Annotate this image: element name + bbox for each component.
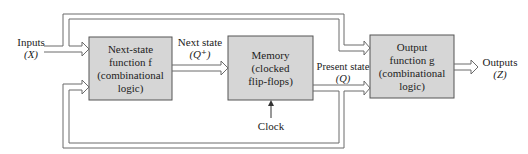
block-line: Memory [252,49,290,62]
present-state-label: Present state (Q) [313,61,373,85]
clock-label: Clock [251,120,291,132]
clock-text: Clock [258,120,284,132]
outputs-label: Outputs (Z) [478,56,522,80]
inputs-symbol: (X) [14,48,48,60]
feedback-arrow-to-next-state [82,80,89,94]
inputs-text: Inputs [14,36,48,48]
present-state-symbol: (Q) [313,73,373,85]
outputs-bus [454,60,478,74]
memory-text: Memory (clocked flip-flops) [228,36,313,100]
next-state-text: Next state [172,36,228,48]
output-function-text: Output function g (combinational logic) [370,35,454,98]
block-line: logic) [399,80,425,93]
next-state-label: Next state (Q⁺) [172,36,228,60]
present-state-text: Present state [313,61,373,73]
next-state-function-text: Next-state function f (combinational log… [89,37,172,100]
next-state-symbol: (Q⁺) [172,48,228,60]
block-line: function f [109,56,152,69]
block-line: Next-state [108,43,153,56]
block-line: Output [397,41,428,54]
clock-arrow [268,100,274,118]
block-line: (combinational [97,69,164,82]
outputs-symbol: (Z) [478,68,522,80]
block-line: function g [390,54,435,67]
block-line: logic) [118,82,144,95]
outputs-text: Outputs [478,56,522,68]
next-state-bus [172,61,228,75]
block-line: (combinational [379,67,446,80]
inputs-label: Inputs (X) [14,36,48,60]
block-line: flip-flops) [248,75,293,88]
block-line: (clocked [252,62,290,75]
